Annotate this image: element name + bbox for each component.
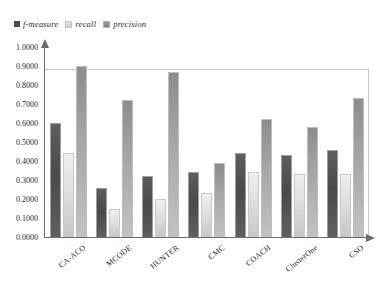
y-axis-tick-label: 0.5000 <box>16 138 38 147</box>
y-axis-tick-label: 0.3000 <box>16 176 38 185</box>
y-axis-tick-label: 0.4000 <box>16 157 38 166</box>
x-axis-tick-label: CSO <box>347 243 365 260</box>
legend-swatch-recall-icon <box>65 21 72 28</box>
bar-f-measure[interactable] <box>327 150 338 237</box>
y-axis-tick-labels: 1.00000.90000.80000.70000.60000.50000.40… <box>0 0 44 303</box>
bar-f-measure[interactable] <box>235 153 246 237</box>
bar-recall[interactable] <box>201 193 212 237</box>
bar-group <box>230 47 276 237</box>
bar-group <box>276 47 322 237</box>
bar-recall[interactable] <box>340 174 351 237</box>
bar-group <box>138 47 184 237</box>
legend-item-recall: recall <box>65 19 96 29</box>
y-axis-tick-label: 0.9000 <box>16 62 38 71</box>
bar-recall[interactable] <box>109 209 120 238</box>
bar-f-measure[interactable] <box>96 188 107 237</box>
y-axis-tick-label: 0.6000 <box>16 119 38 128</box>
y-axis-tick-label: 0.7000 <box>16 100 38 109</box>
x-axis-tick-label: HUNTER <box>148 243 180 271</box>
legend-swatch-precision-icon <box>103 21 110 28</box>
legend-item-precision: precision <box>103 19 146 29</box>
bar-recall[interactable] <box>63 153 74 237</box>
bar-precision[interactable] <box>353 98 364 237</box>
bar-recall[interactable] <box>294 174 305 237</box>
y-axis-tick-label: 0.0000 <box>16 233 38 242</box>
x-axis-tick-label: COACH <box>244 243 272 268</box>
bar-precision[interactable] <box>76 66 87 237</box>
x-axis-tick-label: CA-ACO <box>57 243 88 270</box>
bar-f-measure[interactable] <box>50 123 61 237</box>
legend-label-precision: precision <box>113 19 146 29</box>
bar-f-measure[interactable] <box>188 172 199 237</box>
x-axis-tick-label: ClusterOne <box>283 243 319 274</box>
y-axis-tick-label: 0.2000 <box>16 195 38 204</box>
x-axis-tick-labels: CA-ACOMCODEHUNTERCMCCOACHClusterOneCSO <box>45 237 369 303</box>
bar-precision[interactable] <box>307 127 318 237</box>
bar-recall[interactable] <box>155 199 166 237</box>
bar-precision[interactable] <box>261 119 272 237</box>
bar-group <box>45 47 91 237</box>
bar-f-measure[interactable] <box>281 155 292 237</box>
chart-container: f-measure recall precision 1.00000.90000… <box>0 0 381 303</box>
bar-recall[interactable] <box>248 172 259 237</box>
bar-precision[interactable] <box>122 100 133 237</box>
x-axis-tick-label: MCODE <box>105 243 134 268</box>
legend-label-recall: recall <box>75 19 96 29</box>
bar-precision[interactable] <box>168 72 179 237</box>
y-axis-tick-label: 1.0000 <box>16 43 38 52</box>
bar-precision[interactable] <box>214 163 225 237</box>
bar-group <box>184 47 230 237</box>
y-axis-tick-label: 0.1000 <box>16 214 38 223</box>
bar-group <box>91 47 137 237</box>
plot-area <box>45 47 369 237</box>
bar-f-measure[interactable] <box>142 176 153 237</box>
y-axis-tick-label: 0.8000 <box>16 81 38 90</box>
bar-group <box>323 47 369 237</box>
x-axis-tick-label: CMC <box>207 243 227 261</box>
